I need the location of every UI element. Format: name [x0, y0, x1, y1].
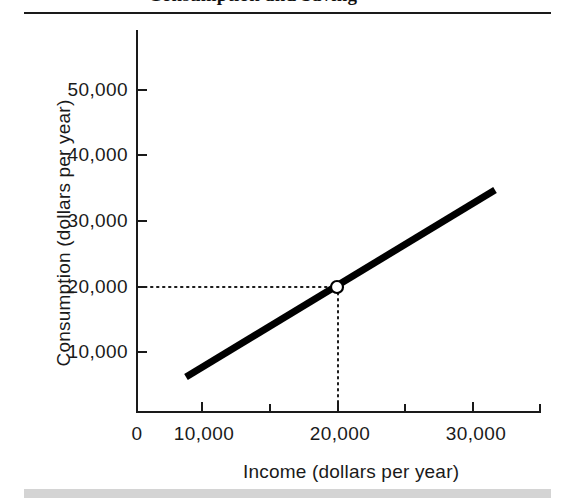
y-tick-label-20000: 20,000 [34, 276, 128, 298]
x-tick-label-0: 0 [132, 423, 143, 445]
bottom-gray-band [24, 489, 551, 498]
figure-container: Consumption and Saving [0, 0, 574, 502]
y-tick-label-30000: 30,000 [34, 210, 128, 232]
break-even-point-marker [331, 281, 343, 293]
x-tick-label-20000: 20,000 [310, 423, 371, 445]
x-tick-label-10000: 10,000 [174, 423, 235, 445]
y-tick-label-40000: 40,000 [34, 144, 128, 166]
x-tick-label-30000: 30,000 [446, 423, 507, 445]
y-axis-ticks [137, 90, 147, 352]
y-tick-label-50000: 50,000 [34, 79, 128, 101]
y-axis-title: Consumption (dollars per year) [53, 73, 75, 393]
x-axis-title: Income (dollars per year) [243, 461, 459, 483]
y-tick-label-10000: 10,000 [34, 341, 128, 363]
x-axis-ticks [202, 402, 540, 412]
